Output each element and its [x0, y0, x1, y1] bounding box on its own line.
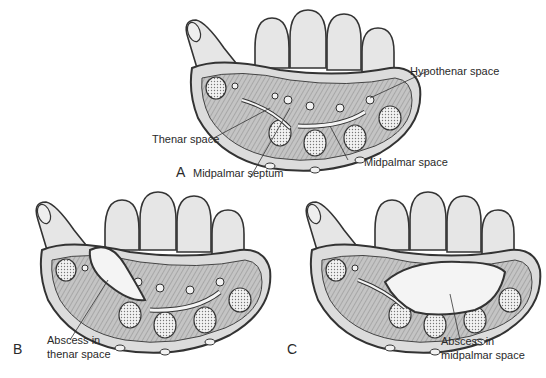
- label-midpalmar-space: Midpalmar space: [364, 156, 448, 169]
- label-abscess-midpalmar-line1: Abscess in: [441, 335, 494, 348]
- panel-letter-b: B: [13, 341, 22, 357]
- label-thenar-space: Thenar space: [152, 133, 219, 146]
- panel-c: [300, 190, 546, 370]
- panel-letter-c: C: [287, 341, 297, 357]
- panel-letter-a: A: [176, 164, 185, 180]
- label-abscess-thenar-line2: thenar space: [47, 348, 111, 361]
- label-midpalmar-septum: Midpalmar septum: [193, 167, 283, 180]
- label-abscess-thenar-line1: Abscess in: [47, 334, 100, 347]
- hand-cross-section-c: [300, 190, 546, 370]
- label-abscess-midpalmar-line2: midpalmar space: [441, 349, 525, 362]
- label-hypothenar-space: Hypothenar space: [410, 65, 499, 78]
